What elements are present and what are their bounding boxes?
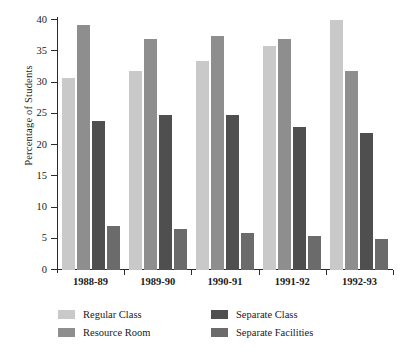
bar xyxy=(62,78,75,271)
legend-item[interactable]: Separate Facilities xyxy=(211,324,388,340)
bar xyxy=(226,115,239,270)
bar-group xyxy=(57,20,124,270)
y-axis-title: Percentage of Students xyxy=(23,26,34,206)
bar xyxy=(308,236,321,270)
legend-swatch xyxy=(211,328,228,337)
legend-swatch xyxy=(58,310,75,319)
bar xyxy=(241,233,254,271)
x-axis-tick-label: 1991-92 xyxy=(259,276,326,287)
bar xyxy=(129,71,142,270)
bar-chart: Percentage of Students 0510152025303540 … xyxy=(0,0,405,352)
legend-label: Separate Class xyxy=(236,309,298,320)
x-axis-tick-label: 1990-91 xyxy=(191,276,258,287)
bar-group xyxy=(124,20,191,270)
x-axis-tick xyxy=(326,270,327,275)
chart-legend: Regular ClassSeparate ClassResource Room… xyxy=(58,306,388,340)
y-axis-tick-label: 0 xyxy=(42,262,47,277)
legend-swatch xyxy=(211,310,228,319)
x-axis-tick-label: 1992-93 xyxy=(326,276,393,287)
x-axis-tick xyxy=(124,270,125,275)
bar xyxy=(159,115,172,270)
bar xyxy=(107,226,120,270)
bar xyxy=(211,36,224,270)
bar xyxy=(278,39,291,270)
bar xyxy=(174,229,187,270)
bar xyxy=(360,133,373,270)
bar-group xyxy=(259,20,326,270)
bar xyxy=(77,25,90,270)
x-axis-tick xyxy=(393,270,394,275)
legend-item[interactable]: Separate Class xyxy=(211,306,388,322)
bar xyxy=(293,127,306,270)
y-axis-tick-label: 5 xyxy=(42,230,47,245)
bar-group xyxy=(191,20,258,270)
y-axis-tick-label: 15 xyxy=(37,168,48,183)
legend-label: Regular Class xyxy=(83,309,142,320)
y-axis-tick-label: 30 xyxy=(37,74,48,89)
y-axis-tick-label: 25 xyxy=(37,105,48,120)
bar-group xyxy=(326,20,393,270)
legend-label: Separate Facilities xyxy=(236,327,313,338)
x-axis-tick-label: 1989-90 xyxy=(124,276,191,287)
bar xyxy=(263,46,276,270)
y-axis-tick-label: 35 xyxy=(37,43,48,58)
bar xyxy=(144,39,157,270)
x-axis-tick xyxy=(191,270,192,275)
legend-item[interactable]: Regular Class xyxy=(58,306,211,322)
bar xyxy=(330,20,343,270)
bar xyxy=(345,71,358,270)
bar xyxy=(375,239,388,270)
y-axis-tick-label: 20 xyxy=(37,137,48,152)
bar xyxy=(92,121,105,270)
bar xyxy=(196,61,209,270)
y-axis-tick-label: 40 xyxy=(37,12,48,27)
legend-label: Resource Room xyxy=(83,327,150,338)
x-axis-tick xyxy=(259,270,260,275)
legend-item[interactable]: Resource Room xyxy=(58,324,211,340)
legend-swatch xyxy=(58,328,75,337)
y-axis-tick-label: 10 xyxy=(37,199,48,214)
plot-area: 0510152025303540 xyxy=(57,20,393,270)
x-axis-tick-label: 1988-89 xyxy=(57,276,124,287)
